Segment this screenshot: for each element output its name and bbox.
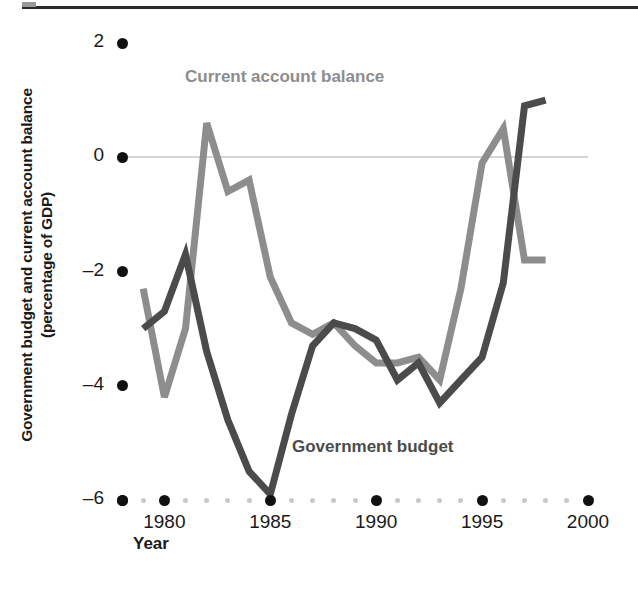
x-minor-dot <box>247 498 252 503</box>
x-tick-dot <box>159 495 170 506</box>
y-tick-label: –6 <box>64 487 104 509</box>
x-tick-dot <box>265 495 276 506</box>
x-minor-dot <box>458 498 463 503</box>
x-minor-dot <box>204 498 209 503</box>
x-minor-dot <box>183 498 188 503</box>
x-minor-dot <box>522 498 527 503</box>
x-minor-dot <box>331 498 336 503</box>
y-tick-dot <box>117 266 128 277</box>
y-tick-label: –4 <box>64 373 104 395</box>
y-tick-label: 2 <box>64 30 104 52</box>
x-minor-dot <box>310 498 315 503</box>
x-tick-label: 2000 <box>553 511 623 533</box>
x-minor-dot <box>416 498 421 503</box>
chart-plot-area: 20–2–4–619801985199019952000 <box>0 0 638 595</box>
series-label-current-account: Current account balance <box>185 66 384 87</box>
x-tick-dot <box>477 495 488 506</box>
x-tick-dot <box>583 495 594 506</box>
y-tick-label: 0 <box>64 144 104 166</box>
series-label-government-budget: Government budget <box>292 436 454 457</box>
x-tick-label: 1995 <box>447 511 517 533</box>
y-tick-label: –2 <box>64 259 104 281</box>
x-minor-dot <box>141 498 146 503</box>
y-tick-dot <box>117 152 128 163</box>
x-minor-dot <box>289 498 294 503</box>
x-tick-dot <box>117 495 128 506</box>
x-minor-dot <box>501 498 506 503</box>
x-minor-dot <box>564 498 569 503</box>
x-axis-title: Year <box>133 534 169 554</box>
x-tick-dot <box>371 495 382 506</box>
y-tick-dot <box>117 38 128 49</box>
x-tick-label: 1980 <box>129 511 199 533</box>
y-tick-dot <box>117 380 128 391</box>
x-minor-dot <box>543 498 548 503</box>
x-tick-label: 1990 <box>341 511 411 533</box>
x-minor-dot <box>353 498 358 503</box>
x-minor-dot <box>437 498 442 503</box>
x-minor-dot <box>395 498 400 503</box>
x-minor-dot <box>225 498 230 503</box>
x-tick-label: 1985 <box>235 511 305 533</box>
